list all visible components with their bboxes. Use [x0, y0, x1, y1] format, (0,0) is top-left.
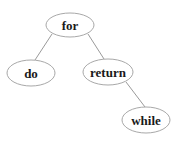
- tree-diagram: for do return while: [0, 0, 180, 147]
- node-return-label: return: [90, 65, 127, 80]
- edge-for-do: [35, 34, 52, 60]
- edge-return-while: [126, 82, 145, 107]
- node-while-label: while: [131, 113, 161, 128]
- node-do: do: [7, 60, 55, 86]
- node-for: for: [46, 13, 94, 37]
- node-while: while: [122, 107, 170, 133]
- edge-for-return: [88, 34, 104, 59]
- node-do-label: do: [24, 66, 38, 81]
- node-for-label: for: [62, 18, 79, 33]
- node-return: return: [83, 59, 133, 85]
